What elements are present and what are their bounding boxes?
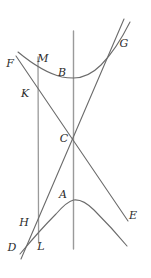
geometry-figure: F M G B K C A E H D L <box>0 0 151 278</box>
point-label-l: L <box>37 241 44 252</box>
asymptote-f-e-line <box>16 56 128 221</box>
point-label-b: B <box>58 67 66 78</box>
point-label-g: G <box>120 38 129 49</box>
point-label-f: F <box>6 58 14 69</box>
chord-m-l-line <box>38 57 39 243</box>
point-label-e: E <box>129 210 137 221</box>
point-label-h: H <box>19 217 29 228</box>
point-label-m: M <box>37 53 48 64</box>
point-label-k: K <box>21 88 29 99</box>
point-label-c: C <box>60 133 68 144</box>
point-label-a: A <box>59 189 67 200</box>
point-label-d: D <box>8 242 17 253</box>
